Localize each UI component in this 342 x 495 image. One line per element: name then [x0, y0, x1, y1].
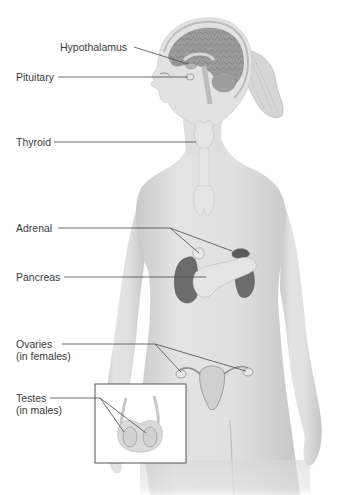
thymus: [194, 186, 215, 215]
label-testes-title: Testes: [16, 392, 62, 404]
left-testis: [123, 427, 137, 447]
label-pancreas: Pancreas: [16, 271, 60, 283]
right-ovary: [243, 368, 253, 376]
label-thyroid: Thyroid: [16, 136, 51, 148]
label-ovaries-title: Ovaries: [16, 338, 71, 350]
right-testis: [143, 427, 157, 447]
thyroid-gland: [195, 121, 214, 148]
cerebellum: [212, 72, 236, 92]
leg-fade: [140, 460, 310, 495]
label-testes: Testes (in males): [16, 392, 62, 416]
label-ovaries: Ovaries (in females): [16, 338, 71, 362]
label-hypothalamus: Hypothalamus: [60, 41, 127, 53]
left-ovary: [176, 370, 186, 378]
label-ovaries-note: (in females): [16, 350, 71, 362]
label-pituitary: Pituitary: [16, 71, 54, 83]
left-adrenal-gland: [193, 248, 204, 259]
label-adrenal: Adrenal: [16, 222, 52, 234]
trachea: [199, 148, 209, 190]
label-testes-note: (in males): [16, 404, 62, 416]
